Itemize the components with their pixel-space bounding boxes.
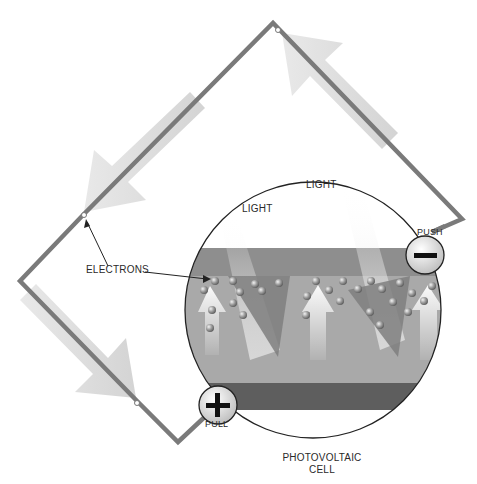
negative-terminal xyxy=(406,236,444,274)
pull-label: PULL xyxy=(205,419,228,429)
photovoltaic-cell-label: PHOTOVOLTAIC CELL xyxy=(280,452,364,476)
circuit-diagram xyxy=(0,0,477,484)
push-label: PUSH xyxy=(417,227,443,237)
electrons-pointer-wire xyxy=(87,222,108,266)
wire-node xyxy=(82,213,87,218)
wire-node xyxy=(276,28,281,33)
electrons-label: ELECTRONS xyxy=(86,264,149,275)
light-label-left: LIGHT xyxy=(242,203,272,214)
cell-label-line1: PHOTOVOLTAIC xyxy=(280,452,364,464)
plus-icon-vertical xyxy=(215,393,220,417)
minus-icon xyxy=(414,253,437,258)
light-label-top: LIGHT xyxy=(306,179,336,190)
cell-label-line2: CELL xyxy=(280,464,364,476)
wire-node xyxy=(135,401,140,406)
